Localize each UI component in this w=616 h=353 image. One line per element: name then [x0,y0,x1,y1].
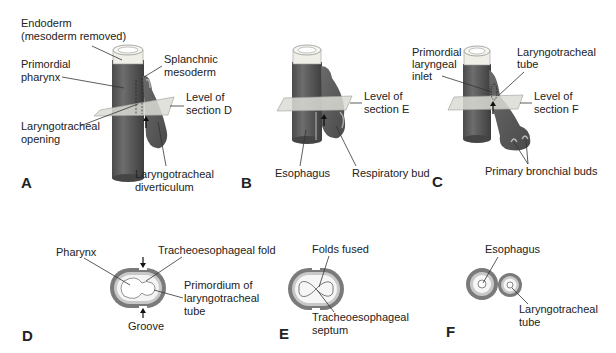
label-primordium-laryngotracheal-tube-3: tube [184,305,205,317]
label-laryngotracheal-tube-f-2: tube [519,316,540,328]
label-tracheoesophageal-fold: Tracheoesophageal fold [158,244,276,256]
label-groove: Groove [128,320,164,332]
label-endoderm: Endoderm [21,17,72,29]
panel-a: Endoderm (mesoderm removed) Primordial p… [21,17,232,193]
label-splanchnic-mesoderm-2: mesoderm [164,66,216,78]
label-level-section-f-2: section F [534,103,579,115]
label-tracheoesophageal-septum-2: septum [312,324,348,336]
panel-b: Level of section E Esophagus Respiratory… [241,45,430,191]
label-primary-bronchial-buds: Primary bronchial buds [485,165,598,177]
label-laryngotracheal-tube-f: Laryngotracheal [519,303,598,315]
label-laryngotracheal-diverticulum: Laryngotracheal [135,168,214,180]
panel-d: Pharynx Tracheoesophageal fold Primordiu… [22,244,276,344]
section-plane-c [448,95,523,110]
panel-f: Esophagus Laryngotracheal tube F [446,243,598,340]
label-primordial-laryngeal-inlet-2: laryngeal [412,58,457,70]
label-folds-fused: Folds fused [312,243,369,255]
label-primordium-laryngotracheal-tube-2: laryngotracheal [184,292,259,304]
cross-section-e [288,266,344,312]
label-laryngotracheal-opening: Laryngotracheal [21,120,100,132]
label-laryngotracheal-tube-c-2: tube [517,58,538,70]
section-plane-b [277,96,352,111]
cross-section-f-trachea [498,273,522,297]
cross-section-f-esophagus [466,268,498,300]
label-primordial-laryngeal-inlet: Primordial [412,46,462,58]
label-level-section-e: Level of [364,90,403,102]
panel-e: Folds fused Tracheoesophageal septum E [279,243,409,342]
label-level-section-d: Level of [186,91,225,103]
label-primordial-laryngeal-inlet-3: inlet [412,70,432,82]
panel-letter-f: F [446,323,455,340]
diagram-canvas: Endoderm (mesoderm removed) Primordial p… [0,0,616,353]
label-esophagus-f: Esophagus [485,243,541,255]
label-primordial-pharynx: Primordial [21,58,71,70]
label-level-section-e-2: section E [364,103,409,115]
label-pharynx: Pharynx [56,246,97,258]
cross-section-d [110,263,169,310]
label-primordium-laryngotracheal-tube: Primordium of [184,279,253,291]
label-respiratory-bud: Respiratory bud [352,167,430,179]
panel-letter-b: B [241,174,252,191]
panel-letter-c: C [432,173,443,190]
label-level-section-f: Level of [534,90,573,102]
label-endoderm-note: (mesoderm removed) [21,30,126,42]
label-primordial-pharynx-2: pharynx [21,71,61,83]
label-laryngotracheal-opening-2: opening [21,133,60,145]
panel-c: Primordial laryngeal inlet Laryngotrache… [412,46,598,190]
panel-letter-d: D [22,327,33,344]
panel-letter-a: A [21,174,32,191]
label-level-section-d-2: section D [186,104,232,116]
label-esophagus-b: Esophagus [275,167,331,179]
label-laryngotracheal-tube-c: Laryngotracheal [517,46,596,58]
label-laryngotracheal-diverticulum-2: diverticulum [135,181,194,193]
label-splanchnic-mesoderm: Splanchnic [164,53,218,65]
panel-letter-e: E [279,325,289,342]
label-tracheoesophageal-septum: Tracheoesophageal [312,311,409,323]
